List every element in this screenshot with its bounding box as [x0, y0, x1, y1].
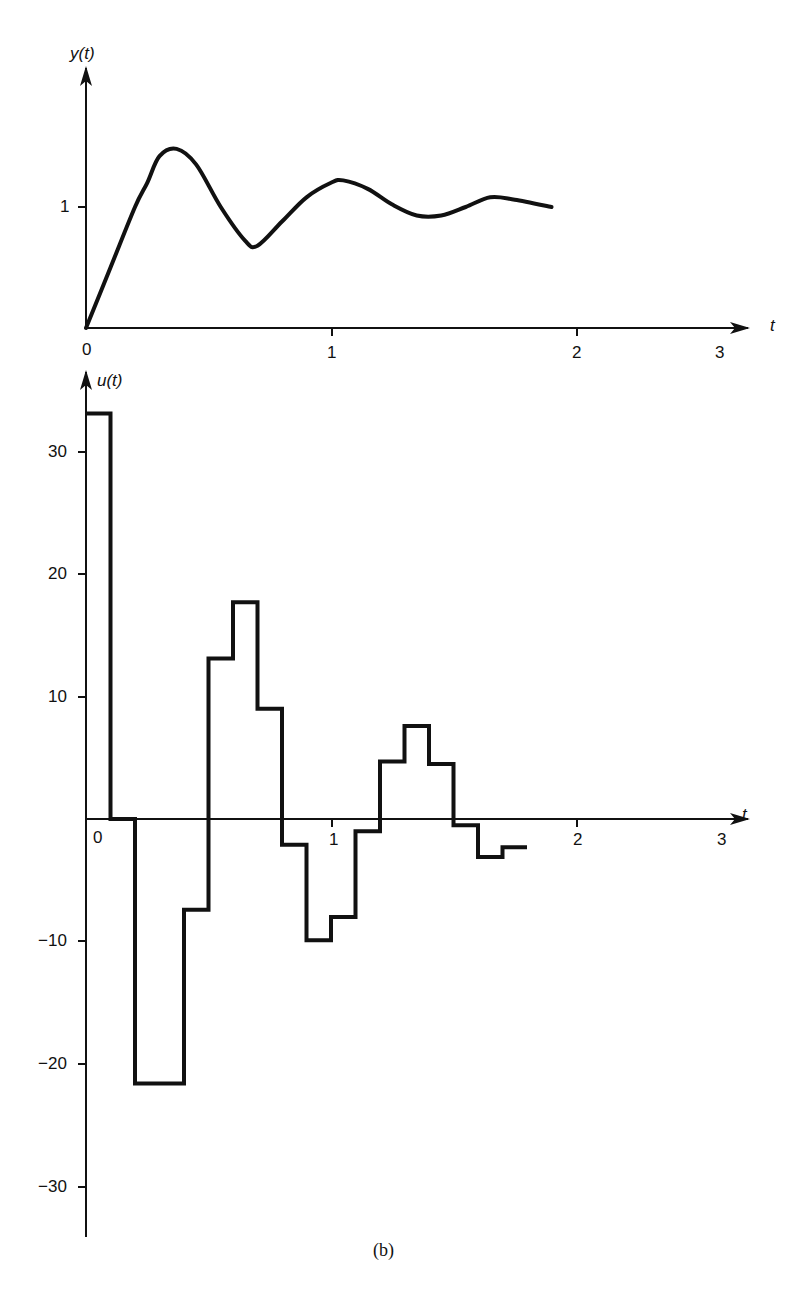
top-y-tick-label-1: 1 — [60, 197, 69, 217]
top-x-tick-label-2: 2 — [572, 343, 581, 363]
bottom-y-axis-label: u(t) — [97, 371, 123, 391]
bottom-x-tick-label-0: 0 — [93, 828, 102, 848]
bottom-x-axis-label: t — [742, 805, 747, 825]
top-x-tick-label-1: 1 — [327, 343, 336, 363]
top-x-axis-label: t — [770, 316, 775, 336]
bottom-y-tick-label-m20: −20 — [38, 1054, 67, 1074]
bottom-y-tick-label-m10: −10 — [38, 931, 67, 951]
u-control-staircase — [86, 414, 527, 1084]
top-chart — [78, 68, 748, 336]
bottom-y-tick-label-30: 30 — [48, 442, 67, 462]
top-x-tick-label-3: 3 — [715, 343, 724, 363]
bottom-y-tick-label-20: 20 — [48, 564, 67, 584]
bottom-y-tick-label-10: 10 — [48, 687, 67, 707]
figure-caption: (b) — [373, 1240, 394, 1261]
figure-canvas — [0, 0, 793, 1294]
bottom-y-tick-label-m30: −30 — [38, 1177, 67, 1197]
bottom-x-tick-label-1: 1 — [329, 830, 338, 850]
bottom-x-tick-label-2: 2 — [573, 830, 582, 850]
bottom-chart — [78, 372, 748, 1237]
y-response-curve — [86, 149, 552, 328]
top-y-axis-label: y(t) — [70, 44, 95, 64]
bottom-x-tick-label-3: 3 — [717, 830, 726, 850]
top-x-tick-label-0: 0 — [82, 340, 91, 360]
